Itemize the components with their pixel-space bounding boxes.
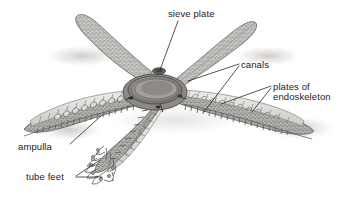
label-tube-feet: tube feet <box>26 172 64 183</box>
sieve-plate-structure <box>153 68 166 74</box>
label-sieve-plate: sieve plate <box>168 9 215 20</box>
leader-sieve-plate <box>160 21 178 70</box>
label-ampulla: ampulla <box>18 142 52 153</box>
figure-canvas: sieve plate canals plates of endoskeleto… <box>0 0 344 202</box>
label-canals: canals <box>241 60 269 71</box>
label-endoskeleton: endoskeleton <box>273 92 331 103</box>
